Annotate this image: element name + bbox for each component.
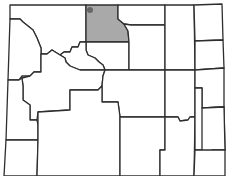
county-crook[interactable] (194, 4, 223, 41)
county-carbon[interactable] (120, 117, 165, 176)
county-converse[interactable] (165, 70, 195, 121)
county-lincoln[interactable] (4, 140, 38, 176)
county-sheridan[interactable] (118, 5, 165, 25)
county-johnson[interactable] (124, 24, 165, 70)
county-campbell[interactable] (165, 5, 195, 70)
county-map (0, 0, 228, 176)
location-marker (87, 7, 93, 13)
county-laramie[interactable] (194, 150, 225, 176)
county-weston[interactable] (195, 40, 224, 70)
county-albany[interactable] (160, 117, 195, 176)
